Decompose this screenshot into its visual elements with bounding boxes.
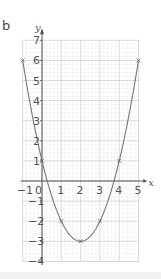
svg-text:5: 5 <box>33 75 40 88</box>
svg-text:5: 5 <box>135 184 142 197</box>
svg-text:y: y <box>34 22 41 33</box>
svg-text:7: 7 <box>33 34 40 47</box>
quadratic-graph: −10123457654321−1−2−3−4xy <box>0 0 161 279</box>
svg-text:1: 1 <box>33 155 40 168</box>
svg-text:x: x <box>148 177 154 188</box>
svg-text:2: 2 <box>33 135 40 148</box>
svg-text:6: 6 <box>33 54 40 67</box>
svg-text:−4: −4 <box>28 255 44 268</box>
svg-text:−3: −3 <box>28 235 44 248</box>
svg-text:3: 3 <box>33 115 40 128</box>
tick-labels: −10123457654321−1−2−3−4xy <box>17 22 154 268</box>
svg-text:−1: −1 <box>28 195 44 208</box>
bottom-band <box>0 272 161 279</box>
svg-text:2: 2 <box>77 184 84 197</box>
svg-text:−2: −2 <box>28 215 44 228</box>
svg-text:3: 3 <box>96 184 103 197</box>
svg-text:4: 4 <box>115 184 122 197</box>
svg-text:1: 1 <box>57 184 64 197</box>
svg-text:4: 4 <box>33 95 40 108</box>
